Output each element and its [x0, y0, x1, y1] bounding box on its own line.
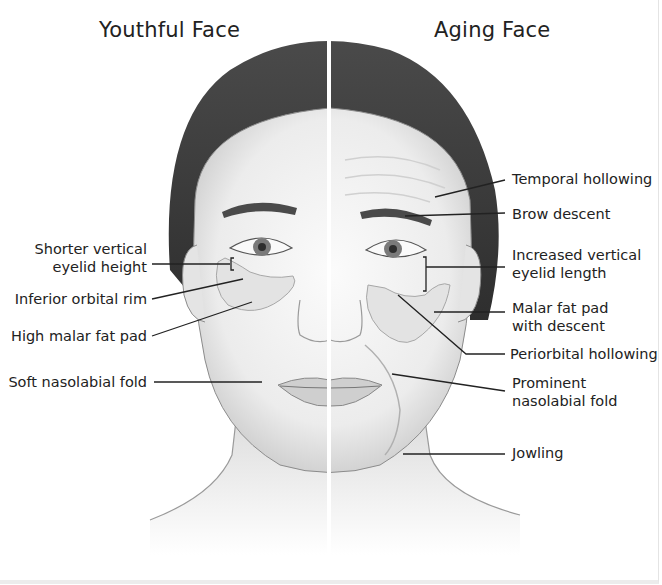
label-line: Increased vertical [512, 246, 641, 264]
label-line: Shorter vertical [35, 240, 147, 258]
label-prominent-nasolabial-fold: Prominent nasolabial fold [512, 374, 617, 410]
label-brow-descent: Brow descent [512, 205, 610, 223]
label-malar-fat-pad-with-descent: Malar fat pad with descent [512, 299, 608, 335]
label-line: eyelid length [512, 264, 641, 282]
label-periorbital-hollowing: Periorbital hollowing [510, 345, 658, 363]
label-line: Prominent [512, 374, 617, 392]
title-youthful-face: Youthful Face [99, 18, 240, 42]
label-jowling: Jowling [512, 444, 563, 462]
label-shorter-vertical-eyelid-height: Shorter vertical eyelid height [35, 240, 147, 276]
title-aging-face: Aging Face [434, 18, 550, 42]
label-temporal-hollowing: Temporal hollowing [512, 170, 652, 188]
label-increased-vertical-eyelid-length: Increased vertical eyelid length [512, 246, 641, 282]
label-line: nasolabial fold [512, 392, 617, 410]
label-soft-nasolabial-fold: Soft nasolabial fold [8, 373, 147, 391]
label-high-malar-fat-pad: High malar fat pad [11, 327, 147, 345]
center-divider [327, 36, 331, 556]
label-line: with descent [512, 317, 608, 335]
label-line: Malar fat pad [512, 299, 608, 317]
label-line: eyelid height [35, 258, 147, 276]
label-inferior-orbital-rim: Inferior orbital rim [15, 290, 147, 308]
